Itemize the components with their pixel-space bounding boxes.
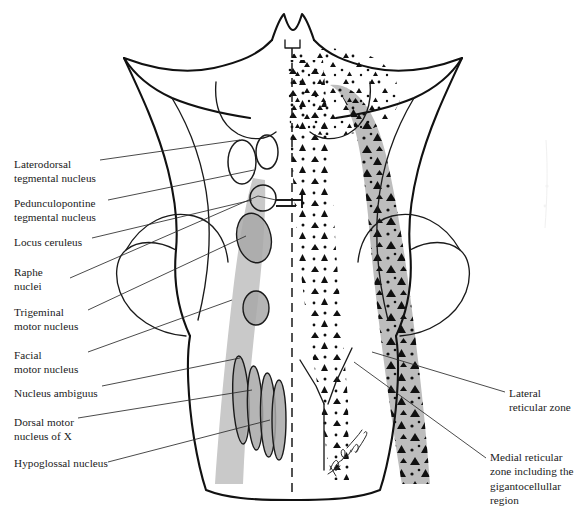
leader-facial	[88, 300, 232, 352]
scan-artifact	[544, 140, 549, 228]
brainstem-figure: Laterodorsal tegmental nucleus Pedunculo…	[0, 0, 585, 521]
label-dorsal-motor-nucleus-of-x: Dorsal motor nucleus of X	[14, 415, 74, 444]
label-lateral-reticular-zone: Lateral reticular zone	[509, 386, 571, 415]
label-laterodorsal-tegmental-nucleus: Laterodorsal tegmental nucleus	[14, 157, 96, 186]
label-pedunculopontine-tegmental-nucleus: Pedunculopontine tegmental nucleus	[14, 196, 96, 225]
laterodorsal-tegmental-nucleus-shape-b	[256, 135, 278, 169]
label-hypoglossal-nucleus: Hypoglossal nucleus	[14, 456, 108, 470]
leader-locus-ceruleus	[92, 200, 252, 238]
brainstem-diagram-svg	[0, 0, 585, 521]
leader-laterodorsal	[100, 140, 240, 160]
leader-ambiguus	[102, 358, 240, 386]
leader-pedunculopontine	[108, 170, 254, 200]
label-locus-ceruleus: Locus ceruleus	[14, 235, 82, 249]
hypoglossal-nucleus-shape	[272, 380, 286, 460]
label-trigeminal-motor-nucleus: Trigeminal motor nucleus	[14, 305, 78, 334]
label-nucleus-ambiguus: Nucleus ambiguus	[14, 386, 98, 400]
label-medial-reticular-zone: Medial reticular zone including the giga…	[490, 450, 574, 508]
leader-lines-right	[354, 352, 505, 458]
label-raphe-nuclei: Raphe nuclei	[14, 265, 43, 294]
label-facial-motor-nucleus: Facial motor nucleus	[14, 348, 78, 377]
leader-trigeminal	[88, 236, 246, 310]
laterodorsal-tegmental-nucleus-shape	[228, 140, 256, 184]
trigeminal-motor-nucleus-shape	[243, 291, 269, 325]
